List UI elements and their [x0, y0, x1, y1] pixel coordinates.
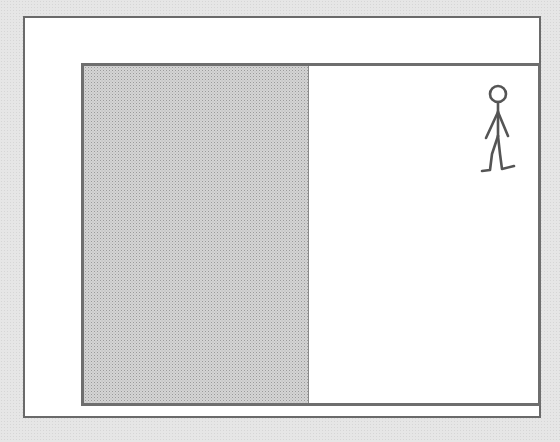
outer-frame — [23, 16, 541, 418]
shaded-region — [84, 66, 309, 403]
stick-figure-icon — [478, 84, 518, 178]
room-frame — [81, 63, 541, 406]
